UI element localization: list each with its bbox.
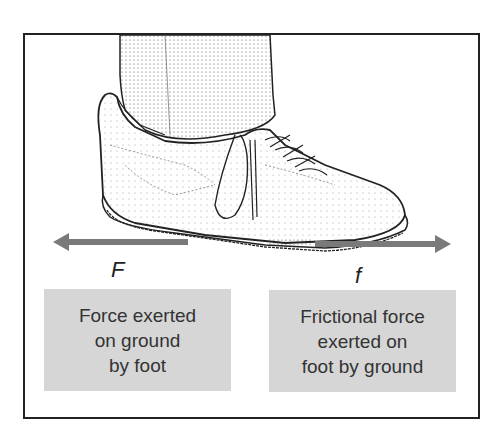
force-arrow-left: [53, 232, 189, 252]
force-symbol-F: F: [111, 257, 124, 283]
caption-line: by foot: [79, 353, 196, 378]
caption-line: exerted on: [300, 329, 425, 354]
trouser-leg: [120, 35, 275, 139]
caption-line: Frictional force: [300, 304, 425, 329]
force-symbol-f: f: [355, 263, 361, 289]
caption-line: on ground: [79, 328, 196, 353]
force-arrow-right: [315, 234, 451, 254]
caption-box-left: Force exerted on ground by foot: [44, 289, 231, 391]
caption-box-right: Frictional force exerted on foot by grou…: [269, 290, 456, 392]
caption-line: foot by ground: [300, 354, 425, 379]
figure-frame: F f Force exerted on ground by foot Fric…: [23, 33, 480, 419]
caption-line: Force exerted: [79, 303, 196, 328]
